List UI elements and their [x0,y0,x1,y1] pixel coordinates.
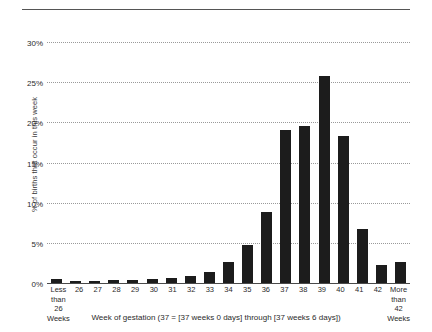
y-axis-tick-label: 15% [27,159,43,168]
bar[interactable] [223,262,234,283]
bar[interactable] [185,276,196,283]
bar[interactable] [127,280,138,283]
bar-slot [238,42,257,283]
bar-slot [372,42,391,283]
bar[interactable] [89,281,100,283]
axis-baseline: 0% [47,283,410,284]
bar-slot [200,42,219,283]
plot-area: 30%25%20%15%10%5%0% [47,42,410,283]
y-axis-tick-label: 20% [27,119,43,128]
bar[interactable] [51,279,62,283]
bar-slot [47,42,66,283]
bar-slot [276,42,295,283]
bars-layer [47,42,410,283]
bar[interactable] [166,278,177,283]
y-axis-tick-label: 25% [27,79,43,88]
bar-slot [219,42,238,283]
bar[interactable] [204,272,215,283]
bar[interactable] [70,281,81,283]
bar[interactable] [338,136,349,283]
bar[interactable] [395,262,406,283]
bar[interactable] [376,265,387,283]
bar-slot [181,42,200,283]
bar[interactable] [299,126,310,283]
bar-slot [85,42,104,283]
y-axis-tick-label: 30% [27,39,43,48]
bar-slot [104,42,123,283]
y-axis-tick-label: 0% [31,280,43,289]
bar[interactable] [280,130,291,283]
birth-week-bar-chart: % of births that occur in this week 30%2… [0,0,432,332]
bar-slot [295,42,314,283]
bar-slot [334,42,353,283]
x-axis-title: Week of gestation (37 = [37 weeks 0 days… [0,313,432,322]
bar[interactable] [319,76,330,283]
bar-slot [391,42,410,283]
bar[interactable] [261,212,272,283]
y-axis-tick-label: 10% [27,199,43,208]
bar[interactable] [357,229,368,283]
bar-slot [315,42,334,283]
bar-slot [162,42,181,283]
bar-slot [143,42,162,283]
bar-slot [123,42,142,283]
bar[interactable] [108,280,119,283]
bar-slot [66,42,85,283]
y-axis-tick-label: 5% [31,239,43,248]
bar-slot [353,42,372,283]
bar[interactable] [242,245,253,283]
bar-slot [257,42,276,283]
header-rule [22,9,410,10]
bar[interactable] [147,279,158,283]
